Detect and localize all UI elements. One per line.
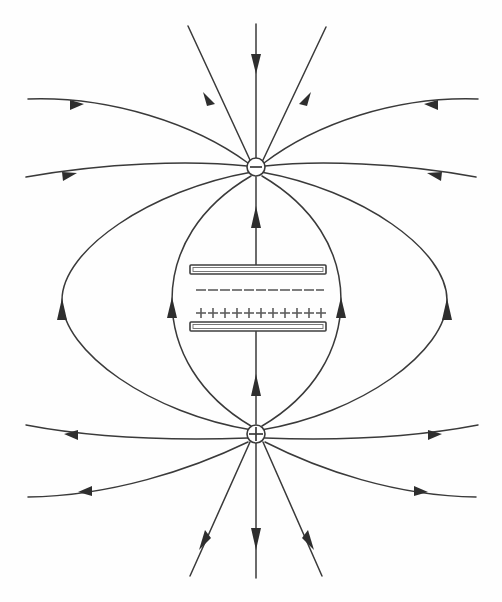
negative-charge-node bbox=[247, 158, 265, 176]
arrowhead-loop-inner-right bbox=[336, 297, 346, 318]
arrowhead-bottom-right-far bbox=[414, 486, 428, 496]
field-loop-inner-right bbox=[262, 176, 341, 426]
field-lines-inner-center bbox=[251, 177, 261, 424]
field-line-top-right-steep bbox=[263, 27, 326, 160]
field-line-bottom-left-far bbox=[26, 425, 248, 439]
field-line-top-left-steep bbox=[188, 26, 250, 160]
arrowhead-loop-large-left bbox=[57, 298, 67, 320]
arrowhead-inner-lower bbox=[251, 374, 261, 396]
field-lines-bottom-outer bbox=[26, 425, 478, 578]
field-line-bottom-right-mid bbox=[265, 425, 478, 439]
arrowhead-bottom-left-mid bbox=[78, 486, 92, 496]
arrowhead-top-left-steep bbox=[203, 92, 215, 106]
field-line-top-right-far bbox=[265, 163, 476, 177]
top-plate-negative bbox=[190, 265, 326, 274]
field-loop-large-right bbox=[261, 172, 447, 430]
field-loop-large-left bbox=[62, 172, 252, 430]
field-line-diagram bbox=[0, 0, 502, 602]
arrowhead-top-right-far bbox=[427, 172, 442, 181]
arrowhead-top-center bbox=[251, 54, 261, 74]
positive-charge-row bbox=[196, 308, 326, 318]
field-line-top-right-mid bbox=[264, 99, 478, 163]
arrowhead-loop-inner-left bbox=[167, 297, 177, 318]
bottom-plate-positive bbox=[190, 322, 326, 331]
field-line-bottom-right-far bbox=[265, 442, 476, 497]
parallel-plate-capacitor bbox=[190, 265, 326, 331]
field-line-top-left-far bbox=[28, 99, 248, 163]
positive-charge-node bbox=[247, 425, 265, 443]
field-line-bottom-left-mid bbox=[28, 442, 248, 497]
field-loop-inner-left bbox=[172, 176, 251, 426]
arrowhead-top-right-steep bbox=[299, 92, 311, 106]
field-line-bottom-right-steep bbox=[263, 442, 322, 576]
arrowhead-top-left-mid bbox=[62, 172, 77, 181]
arrowhead-loop-large-right bbox=[442, 298, 452, 320]
field-line-bottom-left-steep bbox=[190, 442, 250, 576]
field-line-top-left-mid bbox=[26, 163, 247, 177]
arrowhead-bottom-center bbox=[251, 528, 261, 550]
arrowhead-inner-upper bbox=[251, 206, 261, 228]
electric-field-figure bbox=[0, 0, 502, 602]
field-lines-top-outer bbox=[26, 24, 478, 181]
